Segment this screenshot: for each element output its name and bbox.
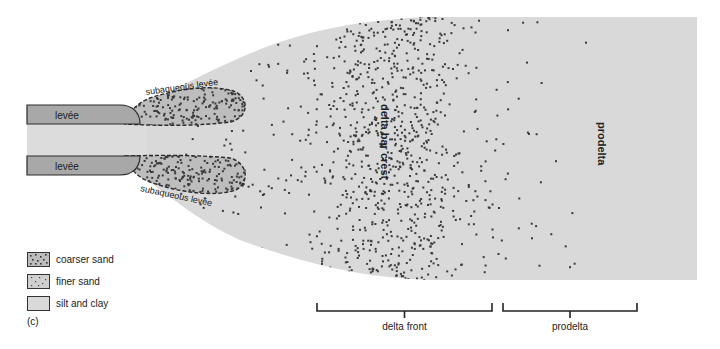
coarser-sand-swatch-icon <box>27 252 50 267</box>
legend-item-silt-clay: silt and clay <box>27 293 114 313</box>
legend-label: finer sand <box>56 276 100 287</box>
zone-brackets: delta frontprodelta <box>317 303 637 332</box>
levee-top-label: levée <box>55 110 79 121</box>
figure-caption: (c) <box>27 316 39 327</box>
legend: coarser sand finer sand silt and clay <box>27 249 114 315</box>
legend-label: silt and clay <box>56 298 108 309</box>
levee-bottom-label: levée <box>55 161 79 172</box>
delta-bar-crest-label: delta bar crest <box>379 104 391 180</box>
legend-label: coarser sand <box>56 254 114 265</box>
prodelta-vertical-label: prodelta <box>596 122 608 166</box>
levee-bottom <box>27 156 140 175</box>
legend-item-finer-sand: finer sand <box>27 271 114 291</box>
bracket-label: delta front <box>382 321 427 332</box>
finer-sand-swatch-icon <box>27 274 50 289</box>
levee-top <box>27 105 140 124</box>
legend-item-coarser-sand: coarser sand <box>27 249 114 269</box>
bracket-label: prodelta <box>552 321 589 332</box>
silt-clay-swatch-icon <box>27 296 50 311</box>
river-channel <box>27 124 147 156</box>
delta-body-silt-clay <box>140 17 697 280</box>
